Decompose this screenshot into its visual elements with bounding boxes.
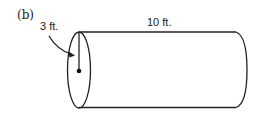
arrowhead-icon — [68, 51, 75, 58]
cylinder-back-arc — [236, 32, 247, 108]
length-label: 10 ft. — [147, 16, 171, 28]
part-label: (b) — [17, 8, 34, 22]
radius-label: 3 ft. — [40, 20, 58, 32]
center-point — [77, 69, 82, 74]
cylinder-diagram: (b) 3 ft. 10 ft. — [0, 0, 261, 116]
